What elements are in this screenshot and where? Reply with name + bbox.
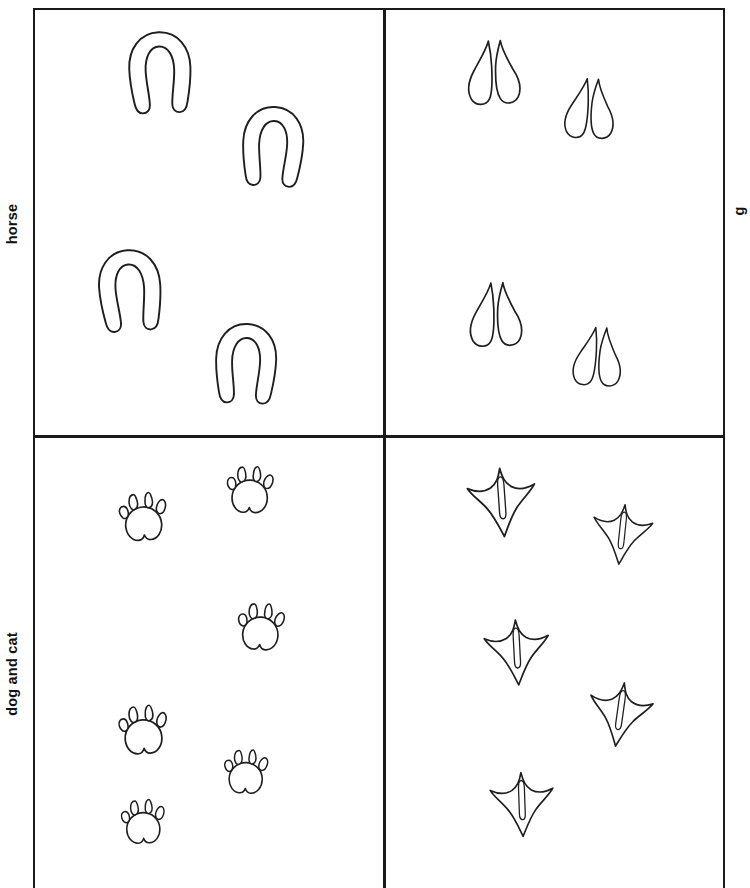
paw-print-track xyxy=(109,694,178,763)
webbed-bird-foot-track xyxy=(580,674,660,754)
row-label-dog-and-cat: dog and cat xyxy=(3,614,21,734)
row-label-right-clipped-top: g xyxy=(730,176,748,246)
paw-print-track xyxy=(216,740,277,801)
cloven-hoof-track xyxy=(460,36,526,109)
track-grid xyxy=(33,8,725,888)
row-label-right-clipped-bottom xyxy=(732,652,750,722)
row-label-horse: horse xyxy=(3,184,21,264)
horseshoe-track xyxy=(236,102,310,192)
horseshoe-track xyxy=(91,245,168,337)
cell-horse-horseshoe xyxy=(33,8,383,435)
cell-webbed-bird-foot xyxy=(386,438,725,888)
cell-paw-print xyxy=(33,438,383,888)
cloven-hoof-track xyxy=(463,279,527,351)
webbed-bird-foot-track xyxy=(586,498,659,571)
cloven-hoof-track xyxy=(559,75,620,143)
webbed-bird-foot-track xyxy=(462,462,543,543)
cloven-hoof-track xyxy=(567,323,627,390)
paw-print-track xyxy=(113,790,174,851)
webbed-bird-foot-track xyxy=(486,768,559,841)
horseshoe-track xyxy=(210,320,283,408)
paw-print-track xyxy=(228,592,295,659)
paw-print-track xyxy=(218,456,283,521)
webbed-bird-foot-track xyxy=(479,614,555,690)
horseshoe-track xyxy=(123,28,197,118)
cell-cloven-hoof xyxy=(386,8,725,435)
paw-print-track xyxy=(109,481,177,549)
